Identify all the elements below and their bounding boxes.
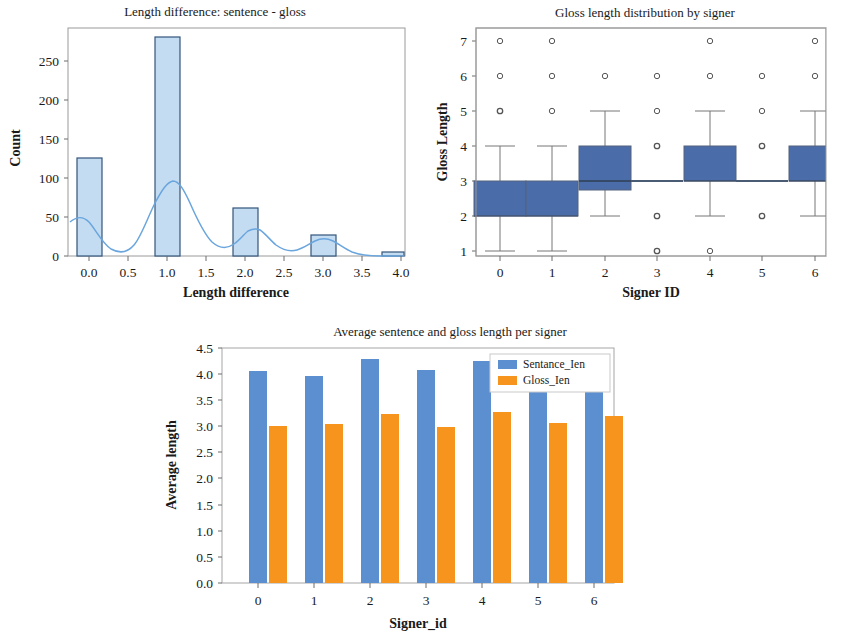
bar-sentence xyxy=(473,361,491,583)
x-tick-0: 0 xyxy=(255,583,262,608)
x-tick-label-7: 3.5 xyxy=(354,265,371,280)
x-tick-label-5: 5 xyxy=(759,265,766,280)
histogram-title: Length difference: sentence - gloss xyxy=(124,4,306,19)
boxplot-y-axis: 7 6 5 4 3 2 1 xyxy=(460,34,476,259)
y-tick-label-1_0: 1.0 xyxy=(196,524,213,539)
x-tick-label-4: 4 xyxy=(707,265,714,280)
bar-gloss xyxy=(605,416,623,583)
x-tick-label-2: 2 xyxy=(367,593,374,608)
x-tick-5: 5 xyxy=(535,583,542,608)
y-tick-4_5: 4.5 xyxy=(196,341,222,356)
x-tick-label-6: 6 xyxy=(591,593,598,608)
y-tick-label-3_5: 3.5 xyxy=(196,393,213,408)
y-tick-label-1_5: 1.5 xyxy=(196,498,213,513)
x-tick-6: 6 xyxy=(591,583,598,608)
y-tick-label-3: 3 xyxy=(460,174,467,189)
x-tick-label-1: 1 xyxy=(311,593,318,608)
x-tick-label-1: 1 xyxy=(549,265,556,280)
x-tick-0: 0.0 xyxy=(81,256,98,280)
y-tick-5: 5 xyxy=(460,104,476,119)
x-tick-label-0: 0 xyxy=(497,265,504,280)
y-tick-0: 0 xyxy=(52,249,68,264)
histogram-y-axis: 0 50 100 150 200 250 xyxy=(39,54,68,264)
x-tick-label-6: 3.0 xyxy=(315,265,332,280)
y-tick-label-100: 100 xyxy=(39,171,60,186)
bar-gloss xyxy=(269,426,287,583)
y-tick-3_0: 3.0 xyxy=(196,419,222,434)
histogram-y-axis-label: Count xyxy=(8,129,23,167)
x-tick-2: 2 xyxy=(602,256,609,280)
grouped-bar-title: Average sentence and gloss length per si… xyxy=(333,324,567,339)
y-tick-label-50: 50 xyxy=(46,210,60,225)
bar-gloss xyxy=(549,423,567,583)
legend-swatch-gloss xyxy=(498,376,517,385)
bar-gloss xyxy=(381,414,399,583)
x-tick-2: 1.0 xyxy=(159,256,176,280)
bar-gloss xyxy=(437,427,455,583)
x-tick-4: 4 xyxy=(707,256,714,280)
x-tick-3: 1.5 xyxy=(198,256,215,280)
histogram-x-axis: 0.0 0.5 1.0 1.5 2.0 2.5 xyxy=(81,256,410,280)
y-tick-150: 150 xyxy=(39,132,68,147)
x-tick-label-0: 0 xyxy=(255,593,262,608)
y-tick-label-250: 250 xyxy=(39,54,60,69)
x-tick-3: 3 xyxy=(654,256,661,280)
y-tick-2_0: 2.0 xyxy=(196,471,222,486)
boxplot-svg: Gloss length distribution by signer 7 6 … xyxy=(430,0,843,310)
grouped-bar-x-axis: 0 1 2 3 4 5 6 xyxy=(255,583,598,608)
grouped-bar-panel: Average sentence and gloss length per si… xyxy=(150,315,700,641)
y-tick-label-4_0: 4.0 xyxy=(196,367,213,382)
y-tick-3_5: 3.5 xyxy=(196,393,222,408)
x-tick-1: 0.5 xyxy=(120,256,137,280)
x-tick-6: 6 xyxy=(812,256,819,280)
bar-sentence xyxy=(305,376,323,583)
x-tick-label-5: 2.5 xyxy=(276,265,293,280)
y-tick-label-150: 150 xyxy=(39,132,60,147)
y-tick-label-1: 1 xyxy=(460,244,467,259)
legend-label-gloss: Gloss_Ien xyxy=(523,374,570,386)
boxplot-panel: Gloss length distribution by signer 7 6 … xyxy=(430,0,843,310)
x-tick-5: 5 xyxy=(759,256,766,280)
x-tick-label-3: 3 xyxy=(423,593,430,608)
y-tick-label-7: 7 xyxy=(460,34,467,49)
legend-swatch-sentence xyxy=(498,360,517,369)
histogram-bar xyxy=(233,208,258,256)
y-tick-label-4_5: 4.5 xyxy=(196,341,213,356)
histogram-svg: Length difference: sentence - gloss 0 50… xyxy=(0,0,430,310)
y-tick-0_0: 0.0 xyxy=(196,576,222,591)
bar-sentence xyxy=(417,370,435,583)
x-tick-label-6: 6 xyxy=(812,265,819,280)
y-tick-4_0: 4.0 xyxy=(196,367,222,382)
x-tick-label-3: 1.5 xyxy=(198,265,215,280)
y-tick-label-0_0: 0.0 xyxy=(196,576,213,591)
y-tick-7: 7 xyxy=(460,34,476,49)
y-tick-2_5: 2.5 xyxy=(196,445,222,460)
y-tick-label-2_5: 2.5 xyxy=(196,445,213,460)
y-tick-6: 6 xyxy=(460,69,476,84)
x-tick-6: 3.0 xyxy=(315,256,332,280)
y-tick-200: 200 xyxy=(39,93,68,108)
histogram-bar xyxy=(77,158,102,256)
y-tick-1_0: 1.0 xyxy=(196,524,222,539)
x-tick-2: 2 xyxy=(367,583,374,608)
x-tick-0: 0 xyxy=(497,256,504,280)
boxplot-x-axis: 0 1 2 3 4 5 6 xyxy=(497,256,819,280)
y-tick-label-0: 0 xyxy=(52,249,59,264)
grouped-bar-y-axis: 4.5 4.0 3.5 3.0 2.5 2.0 xyxy=(196,341,222,591)
x-tick-4: 2.0 xyxy=(237,256,254,280)
x-tick-7: 3.5 xyxy=(354,256,371,280)
y-tick-0_5: 0.5 xyxy=(196,550,222,565)
x-tick-label-4: 2.0 xyxy=(237,265,254,280)
boxplot-plot-frame xyxy=(476,28,826,256)
x-tick-label-8: 4.0 xyxy=(393,265,410,280)
y-tick-50: 50 xyxy=(46,210,69,225)
x-tick-label-4: 4 xyxy=(479,593,486,608)
y-tick-label-3_0: 3.0 xyxy=(196,419,213,434)
legend-label-sentence: Sentance_Ien xyxy=(523,358,585,370)
y-tick-1_5: 1.5 xyxy=(196,498,222,513)
y-tick-4: 4 xyxy=(460,139,476,154)
y-tick-250: 250 xyxy=(39,54,68,69)
x-tick-1: 1 xyxy=(549,256,556,280)
boxplot-y-axis-label: Gloss Length xyxy=(435,102,450,181)
x-tick-label-2: 1.0 xyxy=(159,265,176,280)
